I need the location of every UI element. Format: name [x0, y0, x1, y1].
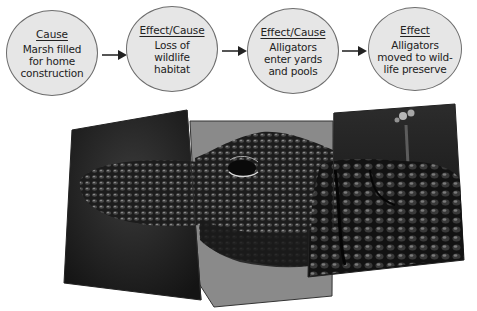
alligator-photo-collage — [0, 0, 477, 311]
left-snout-panel — [64, 110, 201, 300]
